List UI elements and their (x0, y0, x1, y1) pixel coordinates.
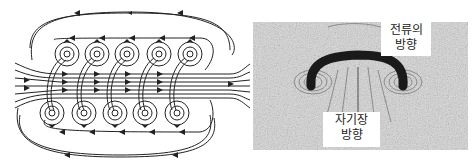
iron-filings-photo: 전류의 방향 자기장 방향 (253, 22, 468, 150)
field-direction-label-line2: 방향 (325, 128, 378, 143)
current-direction-label-line2: 방향 (383, 38, 429, 53)
solenoid-field-lines (0, 0, 250, 166)
field-direction-label: 자기장 방향 (323, 112, 380, 147)
solenoid-field-diagram (0, 0, 250, 166)
bottom-coils (40, 101, 189, 125)
current-direction-label-line1: 전류의 (383, 23, 429, 38)
field-direction-label-line1: 자기장 (325, 113, 378, 128)
current-direction-label: 전류의 방향 (381, 22, 431, 56)
